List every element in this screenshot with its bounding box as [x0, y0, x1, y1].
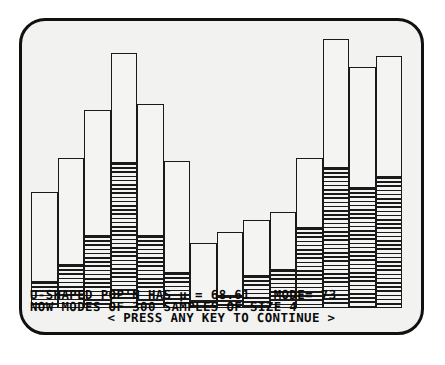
- histogram-bar: [137, 104, 164, 308]
- histogram-bar: [323, 39, 350, 308]
- histogram-bar: [296, 158, 323, 308]
- histogram-bar: [111, 53, 138, 308]
- histogram-bar-shaded-portion: [324, 167, 349, 307]
- histogram-bar-shaded-portion: [112, 162, 137, 307]
- console-text-block: U-SHAPED POP'N HAS µ = 68.61 MODE= 73 NO…: [22, 289, 421, 324]
- screenshot-root: U-SHAPED POP'N HAS µ = 68.61 MODE= 73 NO…: [0, 0, 445, 365]
- histogram-chart: [31, 25, 417, 308]
- crt-screen-frame: U-SHAPED POP'N HAS µ = 68.61 MODE= 73 NO…: [19, 18, 424, 335]
- histogram-bar: [164, 161, 191, 308]
- console-line-prompt[interactable]: < PRESS ANY KEY TO CONTINUE >: [30, 312, 413, 324]
- histogram-bar: [349, 67, 376, 308]
- histogram-bar: [84, 110, 111, 308]
- histogram-bar: [58, 158, 85, 308]
- histogram-bar: [376, 56, 403, 308]
- histogram-bar-shaded-portion: [377, 176, 402, 307]
